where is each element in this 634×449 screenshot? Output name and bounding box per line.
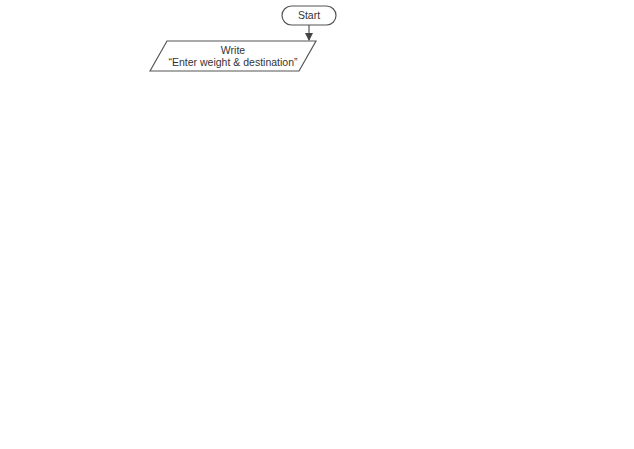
svg-text:“Enter weight & destination”: “Enter weight & destination” <box>169 56 298 68</box>
flowchart: Start Write “Enter weight & destination” <box>0 0 634 449</box>
svg-text:Start: Start <box>298 9 320 21</box>
svg-text:Write: Write <box>221 44 245 56</box>
start-terminal: Start <box>282 6 336 25</box>
write-prompt-io: Write “Enter weight & destination” <box>150 41 316 71</box>
